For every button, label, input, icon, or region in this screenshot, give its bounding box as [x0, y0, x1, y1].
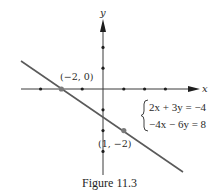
brace-icon: [141, 100, 148, 131]
y-axis-label: y: [99, 7, 106, 18]
x-axis: x: [21, 83, 208, 94]
equation-1: 2x + 3y = −4: [149, 101, 207, 113]
point-label-1-neg2: (1, −2): [98, 138, 132, 149]
x-tick-dot: [39, 87, 42, 90]
y-axis: y: [99, 7, 106, 175]
x-tick-dot: [81, 87, 84, 90]
solution-point-dot: [59, 86, 64, 91]
x-tick-dot: [122, 87, 125, 90]
figure-caption: Figure 11.3: [0, 176, 219, 191]
y-tick-dot: [101, 129, 104, 132]
equation-system: 2x + 3y = −4 −4x − 6y = 8: [141, 100, 207, 131]
x-tick-dot: [164, 87, 167, 90]
equation-2: −4x − 6y = 8: [149, 118, 207, 130]
x-axis-arrow-icon: [188, 86, 200, 92]
solution-line: [21, 61, 183, 172]
y-tick-dot: [101, 46, 104, 49]
point-label-neg2-0: (−2, 0): [60, 71, 94, 82]
x-tick-dot: [143, 87, 146, 90]
y-axis-arrow-icon: [100, 19, 106, 32]
y-tick-dot: [101, 67, 104, 70]
x-axis-label: x: [202, 83, 208, 94]
solution-point-dot: [121, 128, 126, 133]
y-tick-dot: [101, 108, 104, 111]
y-tick-dot: [101, 150, 104, 153]
linear-system-graph: x y (−2, 0) (1, −2) 2x + 3y = −4 −4x − 6…: [0, 0, 219, 193]
